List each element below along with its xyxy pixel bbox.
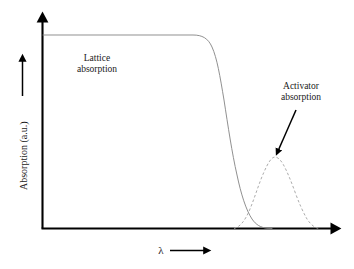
y-axis-label: Absorption (a.u.)	[18, 121, 30, 190]
lattice-annotation-line2: absorption	[77, 64, 117, 74]
x-axis-label: λ	[158, 244, 164, 256]
activator-annotation-line1: Activator	[283, 81, 320, 91]
figure-root: Absorption (a.u.) λ Lattice absorption A…	[0, 0, 354, 269]
absorption-spectrum-chart: Absorption (a.u.) λ Lattice absorption A…	[0, 0, 354, 269]
lattice-annotation-line1: Lattice	[84, 53, 110, 63]
activator-annotation-line2: absorption	[281, 92, 321, 102]
